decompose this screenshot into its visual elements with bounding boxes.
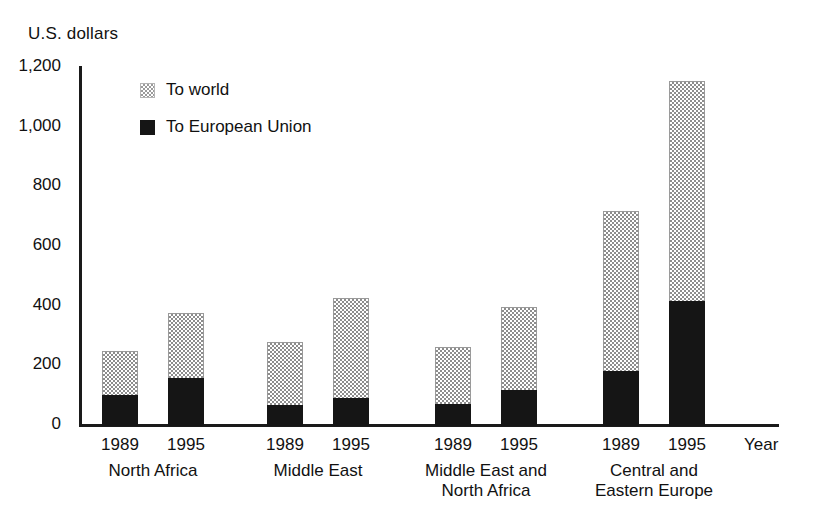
bar-stack [333,298,369,426]
y-axis-tick-label: 1,200 [18,56,61,76]
y-axis-tick-label: 1,000 [18,116,61,136]
x-axis-tick-label: 1995 [668,435,706,455]
legend-swatch-eu-icon [140,120,155,135]
x-axis-tick-label: 1995 [332,435,370,455]
bar-segment-to-european-union [168,378,204,426]
bar-stack [669,81,705,426]
legend-item: To European Union [140,117,312,137]
legend-item: To world [140,80,312,100]
bar-segment-to-european-union [669,301,705,426]
bar-segment-to-european-union [435,404,471,426]
y-axis-tick-label: 0 [52,414,61,434]
legend: To worldTo European Union [140,80,312,154]
legend-item-label: To European Union [166,117,312,137]
bar-stack [501,307,537,426]
bar-stack [168,313,204,426]
x-axis-group-label-line: Eastern Europe [595,481,713,501]
bar-stack [435,347,471,426]
x-axis-group-label: Middle East andNorth Africa [425,461,547,501]
bar-segment-to-european-union [501,390,537,426]
bar-segment-to-european-union [603,371,639,426]
x-axis-group-label-line: Central and [595,461,713,481]
bar-segment-to-european-union [267,405,303,426]
legend-item-label: To world [166,80,229,100]
bar-stack [102,351,138,426]
x-axis-group-label-line: North Africa [109,461,198,481]
x-axis-title: Year [744,435,778,455]
x-axis-group-label: North Africa [109,461,198,481]
bar-segment-to-european-union [102,395,138,426]
y-axis-tick-label: 800 [33,175,61,195]
y-axis-line [79,66,82,426]
chart-canvas: U.S. dollars 02004006008001,0001,200 To … [0,0,817,527]
bar-stack [267,342,303,426]
x-axis-group-label-line: Middle East and [425,461,547,481]
y-axis-tick-label: 200 [33,354,61,374]
x-axis-tick-label: 1989 [266,435,304,455]
legend-swatch-world-icon [140,83,155,98]
x-axis-tick-label: 1995 [167,435,205,455]
x-axis-group-label: Central andEastern Europe [595,461,713,501]
bar-segment-to-european-union [333,398,369,426]
y-axis-tick-label: 400 [33,295,61,315]
x-axis-tick-label: 1989 [434,435,472,455]
x-axis-group-label: Middle East [274,461,363,481]
bar-stack [603,211,639,426]
x-axis-group-label-line: North Africa [425,481,547,501]
x-axis-tick-label: 1995 [500,435,538,455]
x-axis-group-label-line: Middle East [274,461,363,481]
y-axis-tick-label: 600 [33,235,61,255]
x-axis-tick-label: 1989 [602,435,640,455]
x-axis-tick-label: 1989 [101,435,139,455]
y-axis-tick-labels: 02004006008001,0001,200 [0,0,70,527]
